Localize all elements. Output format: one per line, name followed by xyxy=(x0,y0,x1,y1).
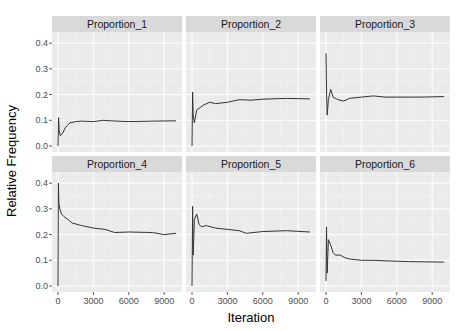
facet-label: Proportion_3 xyxy=(355,18,415,30)
facet-label: Proportion_6 xyxy=(355,158,415,170)
y-tick-label: 0.4 xyxy=(35,38,48,48)
x-tick-label: 3000 xyxy=(217,296,237,306)
x-tick-label: 0 xyxy=(55,296,60,306)
facet-label: Proportion_2 xyxy=(221,18,281,30)
y-tick-label: 0.2 xyxy=(35,90,48,100)
y-tick-label: 0.3 xyxy=(35,204,48,214)
y-tick-label: 0.0 xyxy=(35,281,48,291)
x-tick-label: 3000 xyxy=(351,296,371,306)
x-tick-label: 0 xyxy=(323,296,328,306)
facet-label: Proportion_4 xyxy=(87,158,147,170)
plot-area xyxy=(52,32,182,152)
facet-label: Proportion_5 xyxy=(221,158,281,170)
x-tick-label: 3000 xyxy=(83,296,103,306)
x-tick-label: 6000 xyxy=(387,296,407,306)
x-tick-label: 0 xyxy=(189,296,194,306)
x-tick-label: 9000 xyxy=(288,296,308,306)
y-tick-label: 0.1 xyxy=(35,255,48,265)
x-tick-label: 6000 xyxy=(253,296,273,306)
y-tick-label: 0.4 xyxy=(35,178,48,188)
facet-panel: Proportion_2 xyxy=(186,16,316,152)
x-tick-label: 9000 xyxy=(154,296,174,306)
facet-panel: Proportion_3 xyxy=(320,16,450,152)
y-tick-label: 0.1 xyxy=(35,115,48,125)
facet-panel: Proportion_60300060009000 xyxy=(320,156,450,306)
x-tick-label: 6000 xyxy=(119,296,139,306)
facet-panel: Proportion_50300060009000 xyxy=(186,156,316,306)
plot-area xyxy=(186,32,316,152)
facet-panel: Proportion_10.00.10.20.30.4 xyxy=(35,16,182,152)
facet-panel: Proportion_40.00.10.20.30.40300060009000 xyxy=(35,156,182,306)
y-tick-label: 0.2 xyxy=(35,230,48,240)
x-tick-label: 9000 xyxy=(422,296,442,306)
y-tick-label: 0.3 xyxy=(35,64,48,74)
plot-area xyxy=(186,172,316,292)
plot-area xyxy=(320,32,450,152)
plot-area xyxy=(320,172,450,292)
x-axis-title: Iteration xyxy=(228,310,275,325)
facet-label: Proportion_1 xyxy=(87,18,147,30)
y-axis-title: Relative Frequency xyxy=(4,105,19,217)
faceted-line-chart: Proportion_10.00.10.20.30.4Proportion_2P… xyxy=(0,0,467,331)
y-tick-label: 0.0 xyxy=(35,141,48,151)
